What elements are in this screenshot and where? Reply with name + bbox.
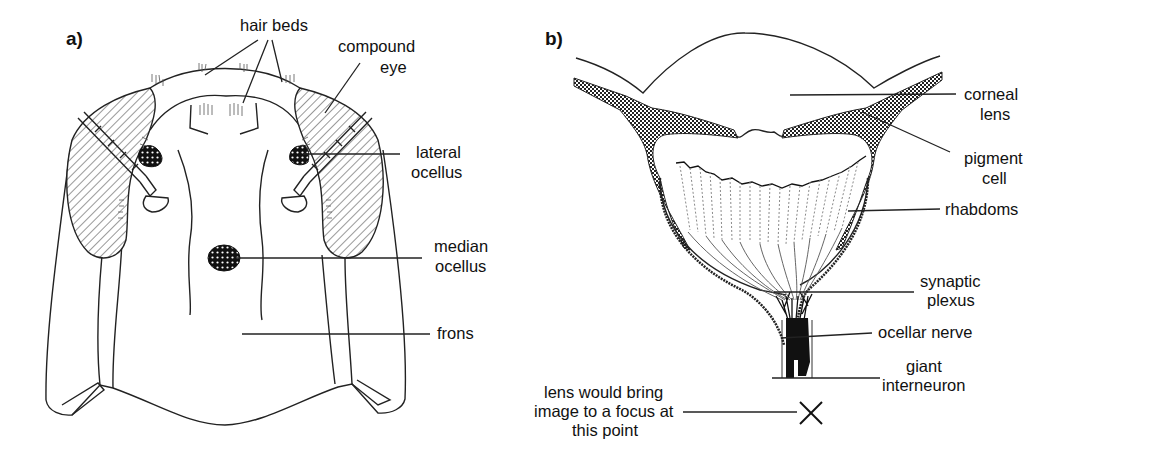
label-hair-beds: hair beds [240, 16, 308, 34]
label-pigment-cell: pigment [964, 149, 1023, 167]
label-compound-eye: compound [338, 37, 415, 55]
label-giant-interneuron: giant [906, 357, 942, 375]
panel-b-tag: b) [545, 28, 563, 49]
label-rhabdoms: rhabdoms [945, 200, 1018, 218]
vertex-outline [150, 69, 300, 89]
lateral-ocellus-left [139, 146, 162, 167]
label-focus-line3: this point [572, 421, 638, 439]
label-ocellar-nerve: ocellar nerve [878, 323, 972, 341]
label-corneal-lens: corneal [964, 85, 1018, 103]
right-suture [260, 150, 268, 320]
ocellar-nerve [786, 318, 810, 378]
retina-edge [676, 156, 866, 188]
rhabdoms [680, 162, 858, 244]
frons-shield [150, 95, 302, 130]
label-focus-line2: image to a focus at [534, 402, 674, 420]
label-synaptic-plexus: synaptic [920, 272, 981, 290]
label-synaptic-plexus-line2: plexus [927, 291, 975, 309]
label-focus-line1: lens would bring [544, 383, 663, 401]
label-lateral-ocellus: lateral [416, 143, 461, 161]
left-suture [178, 150, 192, 315]
label-frons: frons [437, 324, 474, 342]
compound-eye-right [295, 88, 383, 258]
pigment-cell-layer-right [782, 72, 942, 250]
figure: a) [0, 0, 1166, 458]
label-compound-eye-line2: eye [380, 58, 407, 76]
label-giant-interneuron-line2: interneuron [882, 376, 965, 394]
label-corneal-lens-line2: lens [980, 105, 1010, 123]
panel-b: b) [534, 28, 1023, 439]
focus-x-icon [800, 402, 822, 424]
label-lateral-ocellus-line2: ocellus [411, 163, 462, 181]
label-median-ocellus: median [434, 237, 488, 255]
label-median-ocellus-line2: ocellus [435, 257, 486, 275]
panel-a-leader-lines [205, 40, 430, 334]
hair-beds [118, 63, 332, 218]
median-ocellus [208, 245, 240, 271]
retinal-fibers [688, 228, 842, 300]
right-mandible-base [352, 380, 390, 405]
cuticle-surface [576, 33, 940, 93]
label-pigment-cell-line2: cell [982, 169, 1007, 187]
panel-a-tag: a) [66, 28, 83, 49]
right-gena [322, 255, 352, 384]
panel-a: a) [46, 16, 488, 425]
left-gena [98, 240, 122, 388]
lens-inner-edge [736, 130, 784, 138]
compound-eye-left [67, 88, 155, 258]
lateral-ocellus-right [290, 145, 309, 165]
